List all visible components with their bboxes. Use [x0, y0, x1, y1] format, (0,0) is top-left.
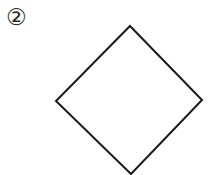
shape-layer	[0, 0, 211, 175]
diamond-shape	[56, 26, 202, 174]
figure-canvas: ②	[0, 0, 211, 175]
